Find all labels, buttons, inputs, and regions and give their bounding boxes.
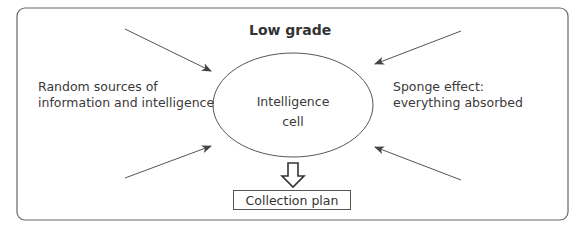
collection-plan-label: Collection plan [246, 193, 339, 208]
left-label-line2: information and intelligence [38, 95, 214, 111]
center-node-line2: cell [253, 112, 333, 132]
right-label-line2: everything absorbed [393, 95, 523, 111]
left-label: Random sources of information and intell… [38, 79, 214, 111]
diagram-title: Low grade [249, 22, 331, 38]
collection-plan-box: Collection plan [233, 190, 351, 210]
arrow-bottom-right [375, 147, 461, 180]
center-node-label: Intelligence cell [253, 92, 333, 132]
center-node-line1: Intelligence [253, 92, 333, 112]
arrow-top-right [375, 31, 461, 64]
right-label-line1: Sponge effect: [393, 79, 523, 95]
left-label-line1: Random sources of [38, 79, 214, 95]
arrow-bottom-left [125, 146, 211, 178]
right-label: Sponge effect: everything absorbed [393, 79, 523, 111]
arrow-top-left [125, 29, 211, 71]
hollow-down-arrow-icon [282, 163, 304, 187]
